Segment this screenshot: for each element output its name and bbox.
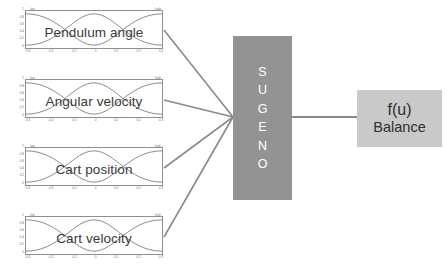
x-tick-label: 0.1	[114, 119, 118, 127]
x-tick-label: -0.3	[25, 187, 30, 195]
x-tick-label: 0	[95, 119, 97, 127]
input-label-cart-velocity: Cart velocity	[25, 231, 163, 246]
sugeno-letter: O	[258, 158, 268, 171]
output-function-label: f(u)	[388, 101, 412, 119]
y-tick-label: 1	[13, 77, 24, 80]
y-tick-label: 0.8	[13, 85, 24, 88]
fis-diagram: 1 0.8 0.6 0.4 0.2 0 low high Pendulum an…	[0, 0, 447, 274]
y-tick-label: 1	[13, 145, 24, 148]
wire-input-4	[164, 117, 233, 237]
x-tick-label: -0.3	[25, 50, 30, 58]
mf-name-right: high	[155, 145, 161, 148]
wire-input-2	[164, 100, 233, 117]
mf-plot-cart-velocity: 1 0.8 0.6 0.4 0.2 0 low high Cart veloci…	[13, 210, 163, 266]
x-tick-label: -0.1	[71, 119, 76, 127]
x-tick-label: 0.1	[114, 187, 118, 195]
y-tick-label: 0.4	[13, 236, 24, 239]
mf-name-right: high	[155, 8, 161, 11]
x-tick-label: 0.2	[136, 256, 140, 264]
mf-name-left: low	[30, 214, 35, 217]
y-tick-label: 0.4	[13, 30, 24, 33]
mf-name-left: low	[30, 145, 35, 148]
x-tick-label: 0	[95, 187, 97, 195]
y-tick-label: 0.4	[13, 167, 24, 170]
input-label-cart-position: Cart position	[25, 162, 163, 177]
mf-name-left: low	[30, 77, 35, 80]
x-tick-label: 0.3	[159, 50, 163, 58]
y-tick-label: 0.6	[13, 229, 24, 232]
x-tick-row: -0.3 -0.2 -0.1 0 0.1 0.2 0.3	[25, 256, 163, 264]
sugeno-letter: G	[258, 103, 268, 116]
y-tick-label: 0.6	[13, 160, 24, 163]
mf-plot-pendulum-angle: 1 0.8 0.6 0.4 0.2 0 low high Pendulum an…	[13, 4, 163, 60]
mf-name-right: high	[155, 77, 161, 80]
output-block-balance[interactable]: f(u) Balance	[357, 90, 442, 147]
y-tick-label: 1	[13, 214, 24, 217]
mf-plot-cart-position: 1 0.8 0.6 0.4 0.2 0 low high Cart positi…	[13, 141, 163, 197]
sugeno-letter: S	[258, 66, 266, 79]
y-tick-label: 0.4	[13, 99, 24, 102]
x-tick-label: -0.1	[71, 256, 76, 264]
y-tick-label: 0.2	[13, 37, 24, 40]
x-tick-label: -0.2	[48, 50, 53, 58]
input-label-pendulum-angle: Pendulum angle	[25, 25, 163, 40]
x-tick-label: -0.3	[25, 256, 30, 264]
mf-plot-angular-velocity: 1 0.8 0.6 0.4 0.2 0 low high Angular vel…	[13, 73, 163, 129]
mf-name-right: high	[155, 214, 161, 217]
y-tick-label: 0.8	[13, 153, 24, 156]
y-tick-label: 0	[13, 182, 24, 185]
y-tick-label: 0.6	[13, 23, 24, 26]
x-tick-label: 0.3	[159, 256, 163, 264]
sugeno-letter: E	[258, 121, 266, 134]
x-tick-label: 0.2	[136, 187, 140, 195]
y-tick-label: 0.2	[13, 174, 24, 177]
y-tick-label: 0	[13, 114, 24, 117]
x-tick-label: 0	[95, 256, 97, 264]
x-tick-label: 0	[95, 50, 97, 58]
input-label-angular-velocity: Angular velocity	[25, 94, 163, 109]
x-tick-label: 0.1	[114, 50, 118, 58]
output-name-label: Balance	[373, 119, 425, 136]
wire-input-1	[164, 30, 233, 117]
x-tick-label: 0.1	[114, 256, 118, 264]
x-tick-label: -0.2	[48, 187, 53, 195]
y-tick-label: 0	[13, 45, 24, 48]
x-tick-label: 0.2	[136, 50, 140, 58]
x-tick-row: -0.3 -0.2 -0.1 0 0.1 0.2 0.3	[25, 187, 163, 195]
sugeno-letter: N	[258, 140, 267, 153]
sugeno-letter: U	[258, 84, 267, 97]
x-tick-label: -0.1	[71, 50, 76, 58]
x-tick-row: -0.3 -0.2 -0.1 0 0.1 0.2 0.3	[25, 119, 163, 127]
x-tick-label: 0.3	[159, 187, 163, 195]
wire-input-3	[164, 117, 233, 168]
y-tick-label: 0	[13, 251, 24, 254]
y-tick-label: 0.8	[13, 222, 24, 225]
mf-name-left: low	[30, 8, 35, 11]
x-tick-label: 0.2	[136, 119, 140, 127]
x-tick-row: -0.3 -0.2 -0.1 0 0.1 0.2 0.3	[25, 50, 163, 58]
x-tick-label: -0.2	[48, 256, 53, 264]
sugeno-inference-block[interactable]: S U G E N O	[233, 36, 292, 200]
y-tick-label: 0.2	[13, 106, 24, 109]
y-tick-label: 0.8	[13, 16, 24, 19]
x-tick-label: -0.2	[48, 119, 53, 127]
x-tick-label: 0.3	[159, 119, 163, 127]
y-tick-label: 1	[13, 8, 24, 11]
y-tick-label: 0.2	[13, 243, 24, 246]
x-tick-label: -0.3	[25, 119, 30, 127]
y-tick-label: 0.6	[13, 92, 24, 95]
x-tick-label: -0.1	[71, 187, 76, 195]
